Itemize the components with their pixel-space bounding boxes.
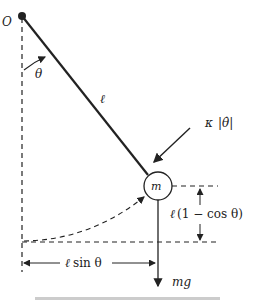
pivot-point — [18, 12, 26, 20]
pendulum-rod — [22, 16, 148, 175]
mass-label: m — [151, 180, 161, 193]
pendulum-diagram: O θ ℓ κ |θ̇| m ℓ(1 − cos θ) mg ℓsin θ — [0, 0, 254, 300]
height-label: ℓ(1 − cos θ) — [170, 207, 243, 221]
diagram-canvas: O θ ℓ κ |θ̇| m ℓ(1 − cos θ) mg ℓsin θ — [0, 0, 254, 300]
angle-label: θ — [35, 67, 43, 81]
length-label: ℓ — [100, 92, 105, 106]
pivot-label: O — [2, 15, 12, 29]
swing-trajectory — [24, 197, 144, 241]
horizontal-label: ℓsin θ — [65, 256, 102, 270]
damping-force-arrow — [154, 128, 190, 162]
weight-label: mg — [172, 275, 191, 289]
damping-label: κ |θ̇| — [204, 116, 233, 130]
